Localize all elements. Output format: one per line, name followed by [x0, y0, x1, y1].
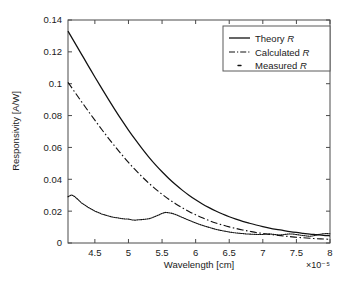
y-axis-label: Responsivity [A/W]: [10, 91, 21, 171]
responsivity-chart: 4.555.566.577.58 00.020.040.060.080.10.1…: [0, 0, 345, 292]
x-axis-label: Wavelength [cm]: [164, 259, 234, 270]
legend-label-calculated: Calculated R: [255, 47, 310, 58]
y-tick-label: 0.1: [49, 78, 62, 89]
y-tick-label: 0.12: [44, 46, 63, 57]
legend-label-theory: Theory R: [255, 33, 294, 44]
figure-container: 4.555.566.577.58 00.020.040.060.080.10.1…: [0, 0, 345, 292]
x-tick-label: 6: [193, 247, 198, 258]
x-tick-label: 6.5: [223, 247, 236, 258]
legend-label-measured: Measured R: [255, 60, 307, 71]
y-tick-label: 0: [57, 237, 62, 248]
y-tick-label: 0.04: [44, 174, 63, 185]
x-tick-label: 8: [327, 247, 332, 258]
y-tick-label: 0.06: [44, 142, 63, 153]
x-axis-exponent-label: ×10⁻⁵: [306, 260, 330, 270]
chart-legend: Theory R Calculated R Measured R: [223, 26, 330, 71]
x-tick-label: 7: [260, 247, 265, 258]
x-tick-label: 7.5: [290, 247, 303, 258]
y-tick-label: 0.02: [44, 206, 63, 217]
x-tick-label: 4.5: [88, 247, 101, 258]
x-tick-label: 5.5: [155, 247, 168, 258]
x-tick-label: 5: [126, 247, 131, 258]
y-tick-label: 0.14: [44, 14, 63, 25]
y-tick-label: 0.08: [44, 110, 63, 121]
